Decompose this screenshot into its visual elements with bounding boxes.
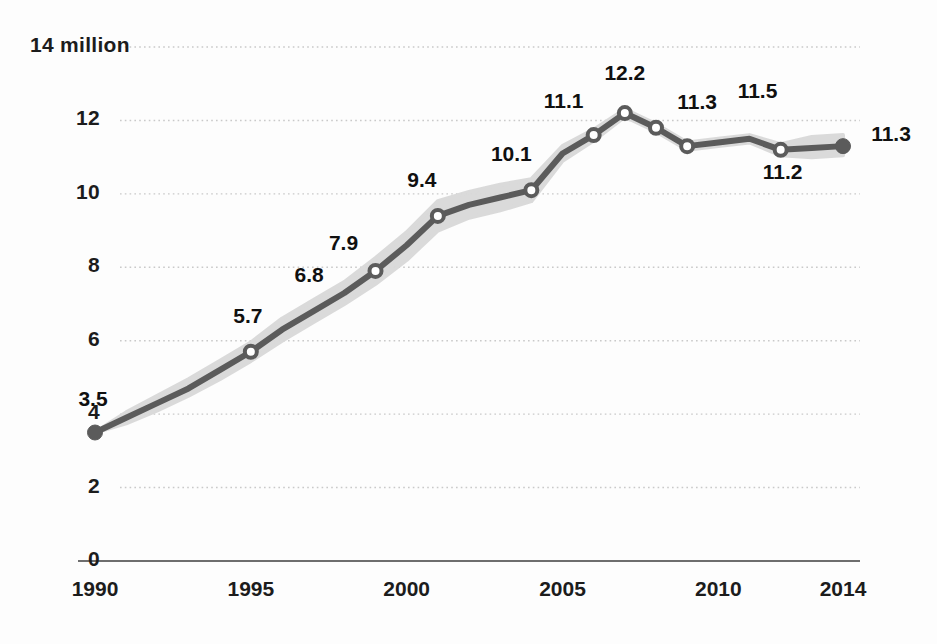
data-point-marker-open	[650, 122, 662, 134]
uncertainty-band-shape	[95, 109, 843, 432]
data-value-label: 11.5	[723, 79, 793, 103]
data-value-label: 9.4	[387, 168, 457, 192]
x-axis-tick-label: 2005	[518, 577, 608, 601]
data-point-marker-open	[619, 107, 631, 119]
data-value-label: 11.1	[529, 89, 599, 113]
data-point-marker-filled	[836, 139, 851, 154]
data-point-marker-open	[370, 265, 382, 277]
y-axis-tick-label: 12	[0, 106, 100, 130]
data-point-marker-filled	[88, 425, 103, 440]
data-value-label: 6.8	[274, 263, 344, 287]
y-axis-tick-label: 0	[0, 547, 100, 571]
x-axis-tick-label: 1995	[206, 577, 296, 601]
y-axis-tick-label: 6	[0, 327, 100, 351]
data-point-marker-open	[588, 129, 600, 141]
data-point-marker-open	[432, 210, 444, 222]
y-axis-tick-label: 10	[0, 180, 100, 204]
y-axis-tick-label: 14 million	[30, 33, 130, 57]
line-chart: 14 million121086420 19901995200020052010…	[0, 0, 937, 644]
y-axis-tick-label: 8	[0, 253, 100, 277]
x-axis-tick-label: 2010	[673, 577, 763, 601]
data-value-label: 11.2	[748, 160, 818, 184]
chart-plot-area	[0, 0, 937, 644]
data-value-label: 7.9	[309, 231, 379, 255]
x-axis-tick-label: 1990	[50, 577, 140, 601]
data-value-label: 11.3	[856, 122, 926, 146]
data-value-label: 10.1	[476, 142, 546, 166]
data-point-marker-open	[681, 140, 693, 152]
data-point-marker-open	[525, 184, 537, 196]
data-value-label: 5.7	[213, 304, 283, 328]
gridlines	[120, 47, 860, 488]
data-value-label: 12.2	[590, 61, 660, 85]
data-value-label: 3.5	[58, 387, 128, 411]
x-axis-tick-label: 2014	[798, 577, 888, 601]
data-point-marker-open	[775, 144, 787, 156]
data-point-marker-open	[245, 346, 257, 358]
y-axis-tick-label: 2	[0, 474, 100, 498]
uncertainty-band	[95, 109, 843, 432]
x-axis-tick-label: 2000	[362, 577, 452, 601]
